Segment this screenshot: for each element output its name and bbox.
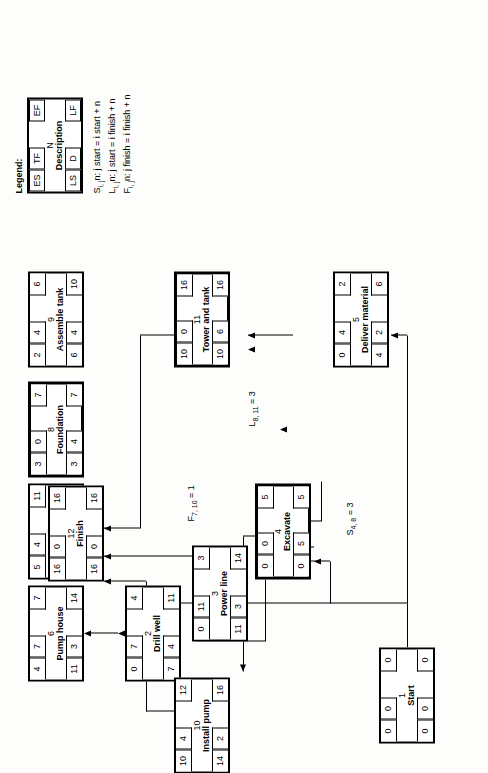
lag-f710-sub: 7, 10 <box>191 500 198 516</box>
lag-label-f710: F7, 10 = 1 <box>186 485 198 521</box>
connector-drill-pumphouse <box>90 632 118 633</box>
node-tower-desc: Tower and tank <box>202 286 211 351</box>
node-pump-lf: 16 <box>212 679 228 701</box>
node-drill-ef: 4 <box>127 587 143 609</box>
connector-bus-to-deliver <box>407 335 408 603</box>
legend-formula-s-rest: n: j start = i start + n <box>92 100 102 180</box>
node-pipe-es: 5 <box>30 555 46 577</box>
arrowhead-drill <box>118 631 125 637</box>
legend-ef: EF <box>29 99 45 121</box>
node-pumphouse-lf: 14 <box>66 587 82 609</box>
node-pumphouse-es: 4 <box>30 657 46 679</box>
node-pump-d: 2 <box>212 727 228 749</box>
arrowhead-deliver <box>391 333 398 339</box>
node-foundation-ls: 3 <box>66 452 82 474</box>
node-deliver-material[interactable]: 0 4 2 5 Deliver material 4 2 6 <box>333 271 389 367</box>
node-finish-lf: 16 <box>86 487 102 509</box>
legend-formula-s: Si, jn: j start = i start + n <box>91 13 106 193</box>
node-excavate-ls: 0 <box>293 554 309 576</box>
node-finish-desc: Finish <box>76 520 85 547</box>
node-assemble-desc: Assemble tank <box>56 287 65 351</box>
node-finish-box[interactable]: 16 0 16 12 Finish 16 0 16 <box>48 485 104 581</box>
node-foundation-tf: 0 <box>31 430 47 452</box>
node-excavate-d: 5 <box>293 532 309 554</box>
node-assemble-ls: 6 <box>66 343 82 365</box>
node-start-tf: 0 <box>381 697 397 719</box>
node-power-lf: 14 <box>230 547 246 569</box>
node-deliver-desc: Deliver material <box>361 285 370 352</box>
lag-l811-base: L <box>247 421 257 426</box>
node-pump-house[interactable]: 4 7 7 6 Pump house 11 3 14 <box>28 585 84 681</box>
node-tower-tf: 0 <box>177 320 193 342</box>
node-finish-tf: 0 <box>50 535 66 557</box>
node-excavate-es: 0 <box>258 554 274 576</box>
node-excavate-ef: 5 <box>258 486 274 508</box>
arrowhead-pumphouse <box>84 631 91 637</box>
lag-label-l811: L8, 11 = 3 <box>247 391 259 426</box>
node-pumphouse-tf: 7 <box>30 635 46 657</box>
legend-tf: TF <box>29 147 45 169</box>
node-excavate-lf: 5 <box>293 486 309 508</box>
node-excavate-tf: 0 <box>258 532 274 554</box>
node-finish-ls: 16 <box>86 557 102 579</box>
arrowhead-tower-lag <box>248 347 255 353</box>
lag-l811-sub: 8, 11 <box>252 406 259 421</box>
legend-desc: Description <box>55 120 64 170</box>
node-pump-ef: 12 <box>176 679 192 701</box>
legend-ls: LS <box>65 169 81 191</box>
node-deliver-tf: 4 <box>335 321 351 343</box>
node-tower-lf: 16 <box>212 274 228 296</box>
connector-start-trunk <box>407 603 408 647</box>
node-excavate[interactable]: 0 0 5 4 Excavate 0 5 5 <box>255 483 311 579</box>
node-power-line[interactable]: 0 11 3 3 Power line 11 3 14 <box>192 545 248 641</box>
lag-s48-base: S <box>345 529 355 535</box>
node-pump-desc: Install pump <box>202 699 211 752</box>
node-power-d: 3 <box>230 595 246 617</box>
node-deliver-d: 2 <box>371 321 387 343</box>
node-drill-d: 4 <box>163 635 179 657</box>
lag-l811-value: 3 <box>247 391 257 396</box>
node-install-pump[interactable]: 10 4 12 10 Install pump 14 2 16 <box>174 677 230 773</box>
node-start-ef: 0 <box>381 649 397 671</box>
node-finish-ef: 16 <box>50 487 66 509</box>
node-start[interactable]: 0 0 0 1 Start 0 0 0 <box>379 647 435 743</box>
connector-bus-to-excavate <box>330 561 331 603</box>
node-excavate-desc: Excavate <box>283 511 292 550</box>
node-drill-lf: 11 <box>163 587 179 609</box>
node-start-es: 0 <box>381 719 397 741</box>
node-foundation-ef: 7 <box>31 384 47 406</box>
node-pumphouse-ef: 7 <box>30 587 46 609</box>
legend-formula-l-rest: n: j start = i finish + n <box>107 98 117 181</box>
legend-es: ES <box>29 169 45 191</box>
node-pumphouse-ls: 11 <box>66 657 82 679</box>
node-assemble-d: 4 <box>66 321 82 343</box>
node-assemble-tank[interactable]: 2 4 6 9 Assemble tank 6 4 10 <box>28 271 84 367</box>
node-pipe-ef: 11 <box>30 485 46 507</box>
node-foundation-d: 4 <box>66 430 82 452</box>
node-pump-tf: 4 <box>176 727 192 749</box>
node-deliver-lf: 6 <box>371 273 387 295</box>
node-assemble-lf: 10 <box>66 273 82 295</box>
node-drill-well[interactable]: 0 7 4 2 Drill well 7 4 11 <box>125 585 181 681</box>
legend-formula-l-base: L <box>107 188 117 193</box>
legend-formula-s-base: S <box>92 187 102 193</box>
node-deliver-ls: 4 <box>371 343 387 365</box>
arrowhead-finish-from-pipe <box>104 554 111 560</box>
node-start-desc: Start <box>407 685 416 706</box>
node-tower-and-tank[interactable]: 10 0 16 11 Tower and tank 10 6 16 <box>174 271 230 367</box>
arrowhead-finish-from-tower <box>104 526 111 532</box>
node-power-ls: 11 <box>230 617 246 639</box>
node-power-desc: Power line <box>220 571 229 616</box>
node-tower-es: 10 <box>177 342 193 364</box>
connector-pump-up <box>146 710 174 711</box>
arrowhead-foundation <box>280 427 287 433</box>
node-tower-ef: 16 <box>177 274 193 296</box>
arrowhead-finish-from-pump <box>104 579 111 585</box>
node-foundation[interactable]: 3 0 7 8 Foundation 3 4 7 <box>28 381 84 477</box>
connector-tower-finish <box>140 335 141 528</box>
node-pump-ls: 14 <box>212 749 228 771</box>
node-drill-tf: 7 <box>127 635 143 657</box>
node-deliver-ef: 2 <box>335 273 351 295</box>
legend-formula-l: Li, jn: j start = i finish + n <box>106 13 121 193</box>
